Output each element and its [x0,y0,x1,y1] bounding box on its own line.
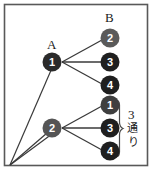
right-lower-node-group: 1 3 4 [101,96,120,161]
edge-origin-to-a2-lower [10,133,47,165]
right-upper-node-group: 2 3 4 [101,29,120,95]
node-c4-number: 4 [107,145,114,157]
group-label-b: B [105,11,114,24]
annotation-count: 3 [128,108,135,121]
annotation-unit-line1: 通 [127,123,138,135]
edge-group-a1 [62,40,102,84]
node-c3-number: 3 [107,122,113,134]
node-c1-number: 1 [107,99,113,111]
group-label-a: A [47,38,56,51]
converging-edge-group [10,68,52,165]
node-a1-number: 1 [49,56,55,68]
edge-a2-c4 [62,128,102,150]
edge-group-a2 [62,106,102,150]
left-node-group: 1 2 [43,53,62,138]
edge-a2-c1 [62,106,102,128]
node-b2-number: 2 [107,32,113,44]
edge-a1-b4 [62,62,102,84]
node-a2-number: 2 [49,122,55,134]
annotation-unit-line2: り [128,137,139,149]
edge-a1-b2 [62,40,102,62]
tree-diagram-figure: 1 2 2 3 4 1 3 4 A B 3 通 り [0,0,157,174]
figure-frame [5,5,148,166]
node-b4-number: 4 [107,79,114,91]
node-b3-number: 3 [107,56,113,68]
edge-origin-to-a1 [10,68,52,165]
